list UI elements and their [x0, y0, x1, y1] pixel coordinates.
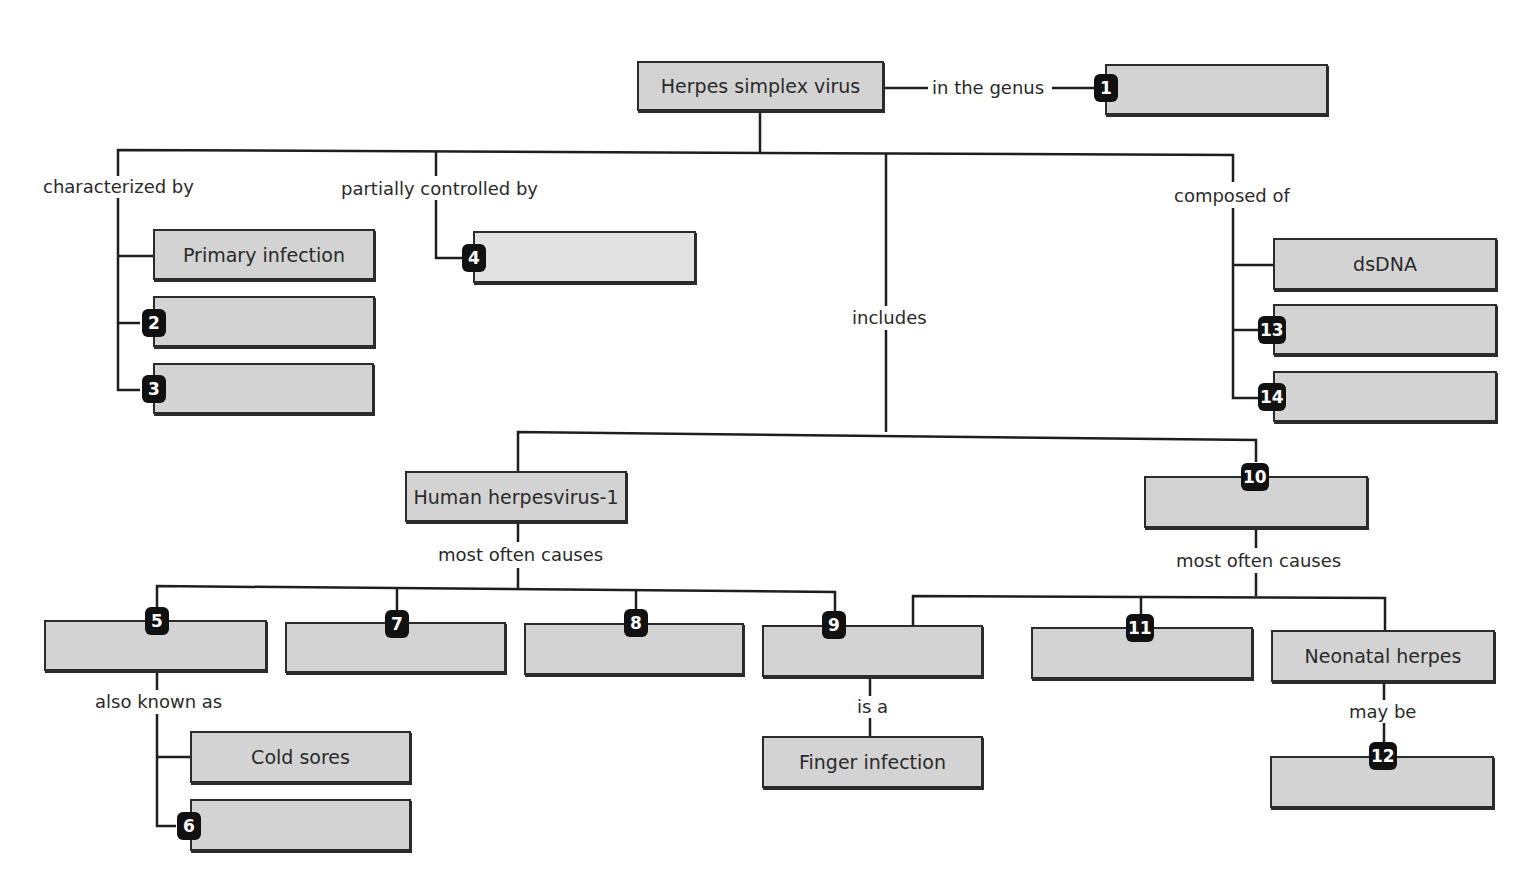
link-may-be: may be	[1346, 701, 1419, 723]
blank-box-6[interactable]	[190, 799, 411, 851]
link-includes: includes	[849, 307, 930, 329]
blank-box-14[interactable]	[1273, 371, 1497, 422]
badge-14: 14	[1258, 383, 1286, 411]
node-cold-sores: Cold sores	[190, 731, 411, 783]
node-label: Neonatal herpes	[1305, 645, 1462, 667]
node-label: Primary infection	[183, 244, 345, 266]
badge-10: 10	[1241, 463, 1269, 491]
blank-box-1[interactable]	[1105, 64, 1328, 115]
blank-box-13[interactable]	[1273, 304, 1497, 355]
node-label: Finger infection	[799, 751, 946, 773]
node-human-herpesvirus-1: Human herpesvirus-1	[405, 471, 627, 522]
node-label: Herpes simplex virus	[661, 75, 860, 97]
badge-2: 2	[142, 309, 166, 337]
link-in-the-genus: in the genus	[929, 77, 1047, 99]
node-label: Human herpesvirus-1	[414, 486, 619, 508]
node-neonatal-herpes: Neonatal herpes	[1271, 630, 1495, 682]
blank-box-9[interactable]	[762, 625, 983, 677]
badge-11: 11	[1126, 614, 1154, 642]
link-characterized-by: characterized by	[40, 176, 197, 198]
badge-8: 8	[624, 609, 648, 637]
blank-box-4[interactable]	[473, 231, 696, 283]
badge-5: 5	[145, 607, 169, 635]
link-is-a: is a	[854, 696, 891, 718]
blank-box-2[interactable]	[153, 296, 375, 347]
badge-12: 12	[1369, 742, 1397, 770]
link-also-known-as: also known as	[92, 691, 225, 713]
concept-map: Herpes simplex virus in the genus 1 char…	[0, 0, 1537, 888]
node-primary-infection: Primary infection	[153, 229, 375, 280]
node-finger-infection: Finger infection	[762, 736, 983, 788]
badge-9: 9	[822, 611, 846, 639]
blank-box-3[interactable]	[153, 363, 374, 414]
badge-6: 6	[177, 812, 201, 840]
node-label: Cold sores	[251, 746, 350, 768]
link-10-most-often-causes: most often causes	[1173, 550, 1344, 572]
node-dsdna: dsDNA	[1273, 238, 1497, 290]
badge-7: 7	[385, 610, 409, 638]
badge-1: 1	[1094, 74, 1118, 102]
node-herpes-simplex-virus: Herpes simplex virus	[637, 61, 884, 111]
badge-3: 3	[142, 375, 166, 403]
badge-4: 4	[462, 244, 486, 272]
badge-13: 13	[1258, 316, 1286, 344]
link-hhv1-most-often-causes: most often causes	[435, 544, 606, 566]
node-label: dsDNA	[1353, 253, 1417, 275]
link-composed-of: composed of	[1171, 185, 1293, 207]
link-partially-controlled-by: partially controlled by	[338, 178, 541, 200]
